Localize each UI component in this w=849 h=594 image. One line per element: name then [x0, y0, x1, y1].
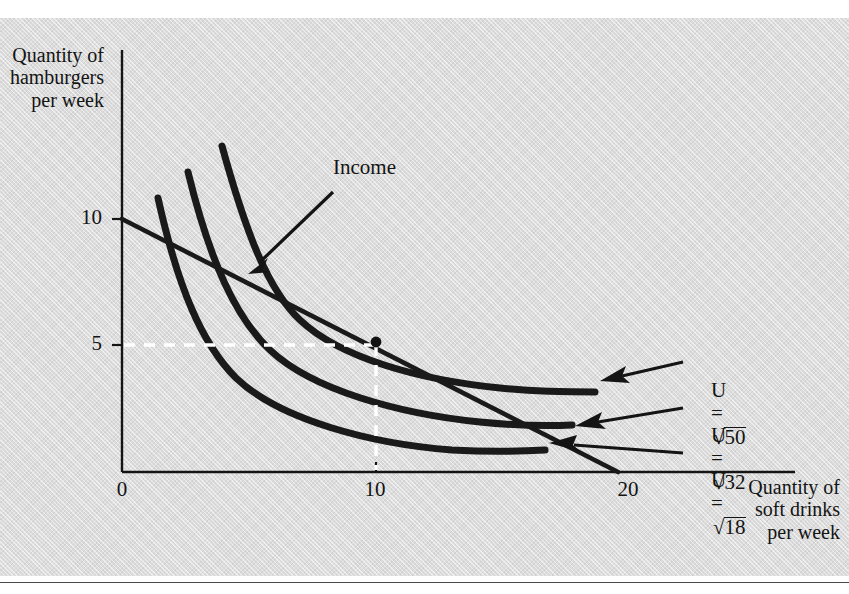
x-axis-label: Quantity of soft drinks per week [660, 476, 840, 543]
optimum-guides [124, 345, 376, 470]
curve-leader-arrow-u18 [549, 435, 683, 453]
y-tick-label-10: 10 [58, 206, 102, 230]
curve-label-u18: U = √18 [690, 445, 746, 563]
curve-label-u18-radicand: 18 [725, 515, 746, 539]
income-annotation-label: Income [333, 156, 396, 180]
curve-leader-arrow-u32 [575, 408, 683, 429]
figure-container: Quantity of hamburgers per week Quantity… [0, 0, 849, 594]
indifference-curve-u18 [158, 198, 545, 451]
y-tick-label-5: 5 [58, 332, 102, 356]
y-axis-label: Quantity of hamburgers per week [8, 44, 104, 111]
curve-label-u32-symbol: U [711, 423, 726, 447]
optimum-point-marker [371, 337, 382, 348]
income-arrow [248, 192, 333, 274]
curve-label-u18-radical: √18 [711, 515, 746, 539]
x-tick-label-20: 20 [606, 478, 650, 502]
curve-label-u18-equals: = [711, 491, 723, 515]
x-tick-label-0: 0 [100, 478, 144, 502]
x-tick-label-10: 10 [353, 478, 397, 502]
curve-leader-arrow-u50 [600, 362, 683, 383]
bottom-divider [0, 582, 849, 583]
curve-label-u18-symbol: U [711, 468, 726, 492]
curve-label-u50-symbol: U [711, 378, 726, 402]
